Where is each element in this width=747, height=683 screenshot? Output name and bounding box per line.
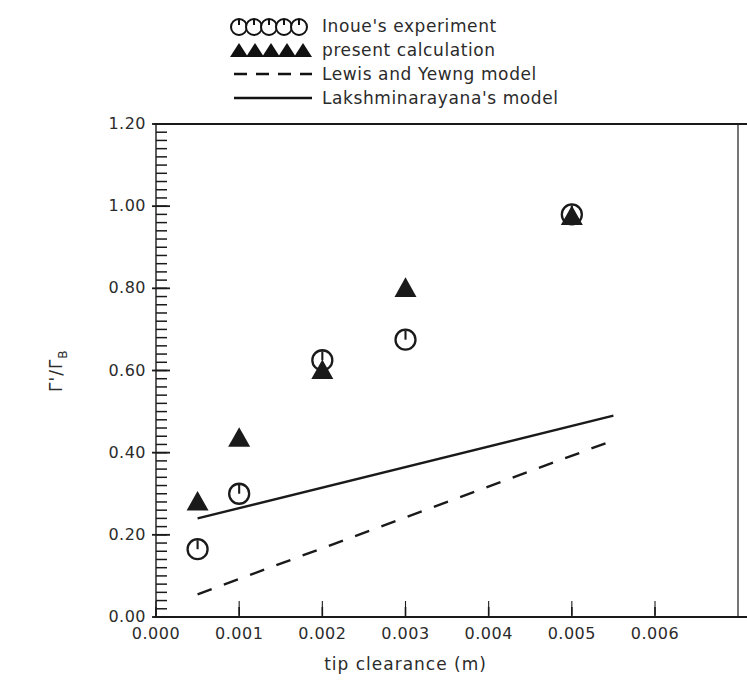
x-tick-label: 0.003 [371, 624, 441, 643]
y-axis-title-subscript: B [56, 349, 70, 358]
y-tick-label: 0.60 [88, 361, 146, 380]
x-tick-label: 0.000 [121, 624, 191, 643]
y-tick-label: 0.40 [88, 443, 146, 462]
plot-area [0, 0, 747, 683]
x-axis-title: tip clearance (m) [311, 654, 501, 674]
data-point-filled-triangle [228, 427, 250, 447]
y-tick-label: 1.20 [88, 114, 146, 133]
y-axis-title-main: Γ'/Γ [46, 358, 66, 391]
x-tick-label: 0.001 [204, 624, 274, 643]
data-point-filled-triangle [395, 277, 417, 297]
y-tick-label: 0.80 [88, 278, 146, 297]
y-tick-label: 0.20 [88, 525, 146, 544]
y-tick-label: 1.00 [88, 196, 146, 215]
series-line-3 [198, 416, 614, 519]
figure-canvas: Inoue's experiment present calculation [0, 0, 747, 683]
x-tick-label: 0.005 [537, 624, 607, 643]
x-tick-label: 0.002 [287, 624, 357, 643]
x-tick-label: 0.006 [620, 624, 690, 643]
y-axis-title: Γ'/ΓB [46, 330, 69, 410]
series-line-2 [198, 440, 614, 594]
data-point-filled-triangle [187, 491, 209, 511]
x-tick-label: 0.004 [454, 624, 524, 643]
